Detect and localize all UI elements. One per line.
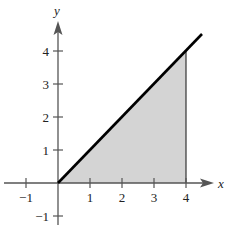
y-tick-label: 3 <box>43 77 50 92</box>
x-tick-label: 1 <box>87 190 94 205</box>
x-axis-label: x <box>217 176 224 191</box>
y-tick-label: 1 <box>43 143 50 158</box>
x-tick-label: 2 <box>119 190 126 205</box>
y-tick-label: 4 <box>43 44 50 59</box>
y-tick-label: 2 <box>43 110 50 125</box>
x-tick-label: −1 <box>19 190 33 205</box>
y-axis-label: y <box>52 3 60 18</box>
y-tick-label: −1 <box>35 209 49 224</box>
region-under-line-diagram: −11234 −11234 x y <box>0 0 226 237</box>
y-ticks: −11234 <box>35 44 63 224</box>
x-tick-label: 4 <box>183 190 190 205</box>
x-tick-label: 3 <box>151 190 158 205</box>
